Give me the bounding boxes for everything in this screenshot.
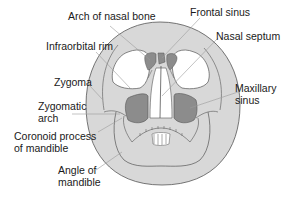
skull-diagram: Arch of nasal bone Frontal sinus Infraor… [0, 0, 290, 201]
label-maxillary-sinus: Maxillary sinus [235, 82, 276, 106]
label-zygomatic-arch-line2: arch [38, 112, 96, 124]
label-coronoid-process-line1: Coronoid process [14, 130, 96, 142]
label-zygoma: Zygoma [54, 76, 92, 88]
maxillary-sinus-right [174, 93, 197, 122]
lower-teeth [152, 133, 170, 146]
label-nasal-septum: Nasal septum [216, 30, 280, 42]
label-coronoid-process-line2: of mandible [14, 142, 96, 154]
label-angle-of-mandible-line2: mandible [58, 176, 101, 188]
label-maxillary-sinus-line2: sinus [235, 94, 276, 106]
label-infraorbital-rim: Infraorbital rim [46, 40, 113, 52]
label-maxillary-sinus-line1: Maxillary [235, 82, 276, 94]
label-coronoid-process: Coronoid process of mandible [14, 130, 96, 154]
label-zygomatic-arch-line1: Zygomatic [38, 100, 96, 112]
label-arch-of-nasal-bone: Arch of nasal bone [68, 10, 156, 22]
label-zygomatic-arch: Zygomatic arch [38, 100, 96, 124]
frontal-sinus-center [158, 53, 165, 64]
maxillary-sinus-left [125, 94, 148, 123]
label-angle-of-mandible-line1: Angle of [58, 164, 101, 176]
label-angle-of-mandible: Angle of mandible [58, 164, 101, 188]
label-frontal-sinus: Frontal sinus [190, 6, 250, 18]
